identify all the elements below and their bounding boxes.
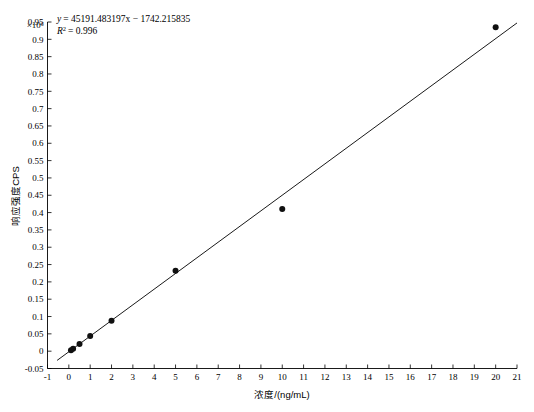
x-tick-label: 8 (237, 372, 242, 382)
x-tick-label: 0 (67, 372, 72, 382)
x-tick-label: 10 (278, 372, 288, 382)
x-tick-label: 3 (131, 372, 136, 382)
calibration-curve-figure: -10123456789101112131415161718192021 -0.… (0, 0, 534, 412)
x-tick-label: 13 (342, 372, 352, 382)
y-tick-label: 0.25 (28, 260, 44, 270)
x-axis-title: 浓度/(ng/mL) (254, 389, 309, 400)
y-tick-label: 0.45 (28, 190, 44, 200)
regression-line (57, 23, 517, 360)
x-tick-label: 20 (491, 372, 501, 382)
x-tick-label: 17 (427, 372, 437, 382)
y-tick-label: 0.9 (32, 35, 44, 45)
r-squared-text: R2= 0.996 (56, 25, 97, 37)
x-tick-label: 18 (448, 372, 458, 382)
x-tick-label: 4 (152, 372, 157, 382)
data-point (173, 268, 179, 274)
y-tick-label: 0.55 (28, 156, 44, 166)
x-tick-label: 14 (363, 372, 373, 382)
equation-lhs: y (56, 14, 62, 24)
x-tick-label: 5 (173, 372, 178, 382)
data-point (109, 318, 115, 324)
y-tick-label: 0.65 (28, 121, 44, 131)
fit-annotation: y= 45191.483197x − 1742.215835 R2= 0.996 (56, 14, 191, 36)
y-tick-label: 0 (39, 346, 44, 356)
y-tick-label: 0.15 (28, 294, 44, 304)
y-axis-ticks (48, 22, 52, 369)
data-point (493, 24, 499, 30)
data-point (77, 341, 83, 347)
y-tick-label: 0.1 (32, 312, 43, 322)
x-axis-tick-labels: -10123456789101112131415161718192021 (44, 372, 522, 382)
y-axis-tick-labels: -0.0500.050.10.150.20.250.30.350.40.450.… (25, 17, 44, 374)
x-tick-label: 15 (384, 372, 394, 382)
data-point (279, 206, 285, 212)
y-tick-label: 0.3 (32, 242, 44, 252)
y-tick-label: 0.35 (28, 225, 44, 235)
equation-rhs: = 45191.483197x − 1742.215835 (63, 14, 190, 24)
x-tick-label: 19 (470, 372, 480, 382)
y-axis-title: 响应强度CPS (10, 166, 21, 226)
x-tick-label: 9 (259, 372, 264, 382)
y-tick-label: 0.4 (32, 208, 44, 218)
chart-canvas: -10123456789101112131415161718192021 -0.… (0, 0, 534, 412)
x-tick-label: 2 (109, 372, 114, 382)
x-tick-label: 11 (299, 372, 308, 382)
x-tick-label: -1 (44, 372, 52, 382)
y-tick-label: 0.85 (28, 52, 44, 62)
data-point (87, 333, 93, 339)
x-axis-ticks (48, 365, 518, 369)
equation-text: y= 45191.483197x − 1742.215835 (56, 14, 191, 24)
y-tick-label: 0.7 (32, 104, 44, 114)
y-tick-label: 0.2 (32, 277, 43, 287)
y-tick-label: -0.05 (25, 364, 44, 374)
y-tick-label: 0.8 (32, 69, 44, 79)
y-tick-label: 0.5 (32, 173, 44, 183)
x-tick-label: 6 (195, 372, 200, 382)
x-tick-label: 1 (88, 372, 93, 382)
r-squared-exponent: 2 (63, 25, 66, 32)
x-tick-label: 16 (406, 372, 416, 382)
y-tick-label: 0.75 (28, 87, 44, 97)
data-point (70, 346, 76, 352)
r-squared-value: = 0.996 (68, 26, 97, 36)
x-tick-label: 12 (320, 372, 329, 382)
x-tick-label: 21 (513, 372, 522, 382)
x-tick-label: 7 (216, 372, 221, 382)
y-tick-label: 0.05 (28, 329, 44, 339)
y-axis-exponent-label: ×10⁶ (27, 20, 44, 30)
data-points-group (68, 24, 499, 353)
y-tick-label: 0.6 (32, 138, 44, 148)
